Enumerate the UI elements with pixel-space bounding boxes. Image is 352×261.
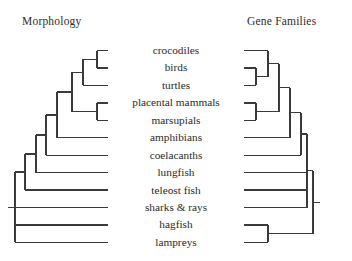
cladogram-gene-families-svg [0,0,352,261]
cladogram-gene-families [0,0,352,261]
